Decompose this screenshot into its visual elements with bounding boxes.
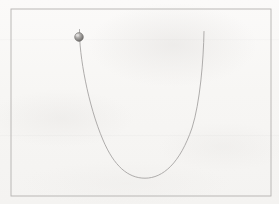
- bead-sphere: [75, 33, 84, 42]
- figure-border: [11, 9, 271, 196]
- bead-highlight: [76, 34, 79, 36]
- figure-canvas: [0, 0, 279, 204]
- bead-group: [75, 33, 84, 42]
- wire-curve: [79, 30, 204, 179]
- figure-container: [0, 0, 279, 204]
